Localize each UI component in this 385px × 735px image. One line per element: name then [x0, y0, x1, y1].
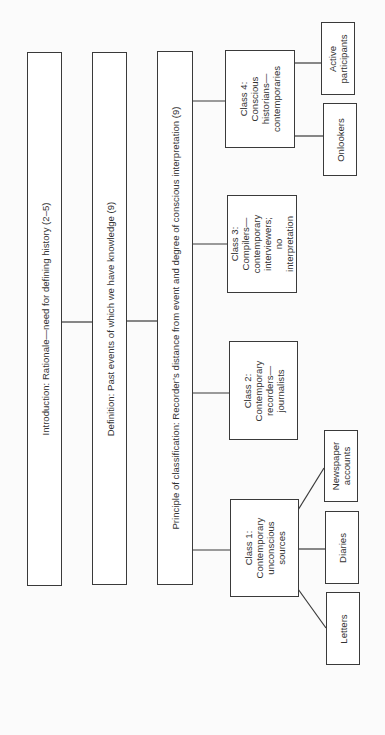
definition-label: Definition: Past events of which we have…	[104, 201, 115, 436]
diaries-box: Diaries	[325, 511, 359, 584]
class2-label: Class 2: Contemporary recorders— journal…	[242, 360, 286, 421]
intro-label: Introduction: Rationale—need for definin…	[39, 202, 50, 435]
diaries-label: Diaries	[337, 533, 348, 563]
class3-box: Class 3: Compilers— contemporary intervi…	[227, 195, 297, 293]
class1-label: Class 1: Contemporary unconscious source…	[243, 518, 287, 579]
letters-box: Letters	[326, 592, 360, 665]
newspaper-label: Newspaper accounts	[330, 442, 352, 491]
onlookers-label: Onlookers	[335, 118, 346, 162]
definition-box: Definition: Past events of which we have…	[92, 52, 127, 585]
onlookers-box: Onlookers	[323, 103, 357, 176]
active-participants-box: Active participants	[321, 22, 355, 95]
class1-box: Class 1: Contemporary unconscious source…	[230, 499, 299, 597]
class3-label: Class 3: Compilers— contemporary intervi…	[229, 215, 295, 274]
class4-box: Class 4: Conscious historians— contempor…	[225, 50, 295, 148]
newspaper-box: Newspaper accounts	[324, 430, 358, 502]
letters-label: Letters	[338, 614, 349, 643]
class2-box: Class 2: Contemporary recorders— journal…	[229, 341, 298, 440]
principle-label: Principle of classification: Recorder’s …	[170, 106, 181, 529]
class4-label: Class 4: Conscious historians— contempor…	[238, 66, 282, 132]
intro-box: Introduction: Rationale—need for definin…	[27, 52, 62, 586]
principle-box: Principle of classification: Recorder’s …	[157, 51, 193, 585]
active-participants-label: Active participants	[327, 34, 349, 83]
